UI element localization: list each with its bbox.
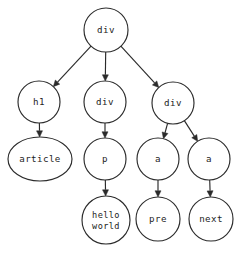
node-label: helloworld <box>92 210 120 231</box>
tree-edge <box>121 46 159 87</box>
arrow-head-icon <box>155 191 161 197</box>
tree-node-pre[interactable]: pre <box>136 197 180 241</box>
tree-edge <box>53 46 91 87</box>
tree-edge <box>207 180 213 197</box>
arrow-head-icon <box>37 131 43 137</box>
tree-node-right-div[interactable]: div <box>152 82 194 124</box>
arrow-head-icon <box>192 135 198 142</box>
tree-node-a-pre[interactable]: a <box>137 138 179 180</box>
tree-edge <box>155 180 161 197</box>
node-label: article <box>19 153 61 164</box>
tree-edge <box>102 123 108 138</box>
node-label: div <box>164 97 182 108</box>
node-label: a <box>155 153 161 164</box>
tree-node-next[interactable]: next <box>189 197 233 241</box>
arrow-head-icon <box>103 190 109 196</box>
edge-line <box>58 46 91 82</box>
tree-node-article[interactable]: article <box>8 137 72 181</box>
tree-node-p[interactable]: p <box>84 138 126 180</box>
tree-graph-canvas: divh1divdivarticlepaahelloworldprenext <box>0 0 248 254</box>
arrow-head-icon <box>162 132 168 139</box>
node-label: a <box>206 153 212 164</box>
tree-node-a-next[interactable]: a <box>188 138 230 180</box>
node-label: div <box>97 24 115 35</box>
tree-node-h1[interactable]: h1 <box>18 81 60 123</box>
dom-tree-diagram: divh1divdivarticlepaahelloworldprenext <box>0 0 248 254</box>
node-label: pre <box>149 213 167 224</box>
tree-node-mid-div[interactable]: div <box>84 81 126 123</box>
edge-line <box>184 121 194 136</box>
node-layer: divh1divdivarticlepaahelloworldprenext <box>8 8 233 244</box>
tree-edge <box>37 123 43 137</box>
edge-line <box>165 123 168 132</box>
arrow-head-icon <box>102 132 108 138</box>
tree-edge <box>103 180 109 196</box>
tree-edge <box>162 123 168 138</box>
tree-node-hello-world[interactable]: helloworld <box>82 196 130 244</box>
arrow-head-icon <box>102 75 108 81</box>
arrow-head-icon <box>207 191 213 197</box>
edge-line <box>121 46 155 83</box>
tree-edge <box>184 121 197 142</box>
node-label: next <box>199 213 223 224</box>
tree-edge <box>102 52 108 81</box>
node-label: h1 <box>33 96 45 107</box>
node-label: div <box>96 96 114 107</box>
node-label: p <box>102 153 108 164</box>
tree-node-root-div[interactable]: div <box>84 8 128 52</box>
